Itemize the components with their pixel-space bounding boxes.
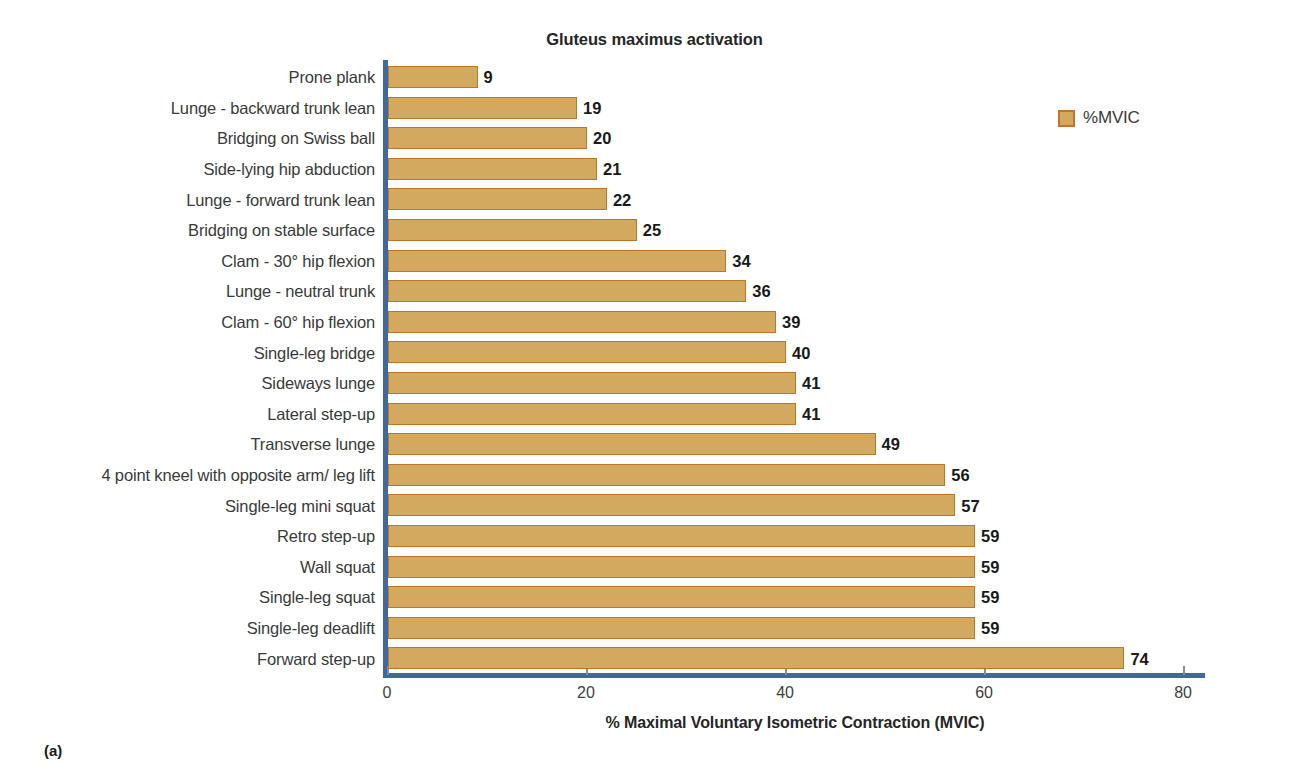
- bar[interactable]: [388, 586, 975, 608]
- x-axis-title: % Maximal Voluntary Isometric Contractio…: [387, 714, 1203, 732]
- bar-row: Wall squat59: [387, 552, 1203, 583]
- bar[interactable]: [388, 250, 726, 272]
- bar-row: Bridging on Swiss ball20: [387, 123, 1203, 154]
- bar[interactable]: [388, 97, 577, 119]
- bar-row: Lateral step-up41: [387, 399, 1203, 430]
- category-label: Prone plank: [289, 68, 375, 87]
- bar[interactable]: [388, 280, 746, 302]
- category-label: Single-leg bridge: [254, 343, 375, 362]
- bar-row: Prone plank9: [387, 62, 1203, 93]
- bar[interactable]: [388, 494, 955, 516]
- category-label: Clam - 30° hip flexion: [221, 251, 375, 270]
- bar-row: Clam - 60° hip flexion39: [387, 307, 1203, 338]
- bar-value-label: 9: [484, 68, 493, 87]
- x-tick-label: 60: [975, 684, 993, 702]
- bar-value-label: 59: [981, 557, 999, 576]
- category-label: Single-leg squat: [259, 588, 375, 607]
- bar[interactable]: [388, 433, 876, 455]
- figure-panel-a: Gluteus maximus activation %MVIC 0204060…: [0, 0, 1309, 774]
- x-tick-label: 80: [1174, 684, 1192, 702]
- bar-row: Single-leg mini squat57: [387, 490, 1203, 521]
- bar-value-label: 21: [603, 160, 621, 179]
- category-label: Forward step-up: [257, 649, 375, 668]
- category-label: Single-leg mini squat: [225, 496, 375, 515]
- bar-row: Single-leg bridge40: [387, 337, 1203, 368]
- bar[interactable]: [388, 66, 478, 88]
- bar-row: Sideways lunge41: [387, 368, 1203, 399]
- bar[interactable]: [388, 127, 587, 149]
- bar-value-label: 19: [583, 98, 601, 117]
- bar-value-label: 22: [613, 190, 631, 209]
- bar[interactable]: [388, 647, 1124, 669]
- panel-caption: (a): [44, 742, 62, 759]
- x-tick-label: 40: [776, 684, 794, 702]
- bar-value-label: 56: [951, 466, 969, 485]
- bar[interactable]: [388, 188, 607, 210]
- bar-value-label: 41: [802, 374, 820, 393]
- bar-value-label: 59: [981, 588, 999, 607]
- category-label: Sideways lunge: [262, 374, 375, 393]
- category-label: Transverse lunge: [251, 435, 375, 454]
- bar[interactable]: [388, 372, 796, 394]
- bar-value-label: 36: [752, 282, 770, 301]
- bar-value-label: 40: [792, 343, 810, 362]
- bar[interactable]: [388, 525, 975, 547]
- category-label: Wall squat: [300, 557, 375, 576]
- bar-row: Lunge - backward trunk lean19: [387, 93, 1203, 124]
- bar-value-label: 25: [643, 221, 661, 240]
- category-label: Bridging on stable surface: [188, 221, 375, 240]
- category-label: Single-leg deadlift: [247, 619, 375, 638]
- bar-row: Clam - 30° hip flexion34: [387, 246, 1203, 277]
- plot-area: 020406080 Prone plank9Lunge - backward t…: [387, 60, 1203, 680]
- bar-row: 4 point kneel with opposite arm/ leg lif…: [387, 460, 1203, 491]
- bar-row: Transverse lunge49: [387, 429, 1203, 460]
- bar-value-label: 49: [882, 435, 900, 454]
- bar[interactable]: [388, 158, 597, 180]
- category-label: 4 point kneel with opposite arm/ leg lif…: [101, 466, 375, 485]
- bar[interactable]: [388, 311, 776, 333]
- bar-value-label: 34: [732, 251, 750, 270]
- bar[interactable]: [388, 617, 975, 639]
- bar[interactable]: [388, 341, 786, 363]
- bar[interactable]: [388, 464, 945, 486]
- bar-row: Forward step-up74: [387, 643, 1203, 674]
- x-tick-label: 20: [577, 684, 595, 702]
- category-label: Clam - 60° hip flexion: [221, 313, 375, 332]
- bar-row: Lunge - forward trunk lean22: [387, 184, 1203, 215]
- bar-value-label: 39: [782, 313, 800, 332]
- bar-row: Single-leg deadlift59: [387, 613, 1203, 644]
- bar-value-label: 57: [961, 496, 979, 515]
- category-label: Lateral step-up: [267, 404, 375, 423]
- bar-row: Retro step-up59: [387, 521, 1203, 552]
- category-label: Lunge - forward trunk lean: [186, 190, 375, 209]
- chart-title: Gluteus maximus activation: [0, 30, 1309, 49]
- category-label: Retro step-up: [277, 527, 375, 546]
- bar-value-label: 74: [1130, 649, 1148, 668]
- bar-row: Bridging on stable surface25: [387, 215, 1203, 246]
- bar[interactable]: [388, 403, 796, 425]
- bar[interactable]: [388, 556, 975, 578]
- category-label: Bridging on Swiss ball: [217, 129, 375, 148]
- bar-row: Lunge - neutral trunk36: [387, 276, 1203, 307]
- bar-value-label: 41: [802, 404, 820, 423]
- bar-value-label: 59: [981, 619, 999, 638]
- category-label: Lunge - backward trunk lean: [171, 98, 375, 117]
- bar-value-label: 20: [593, 129, 611, 148]
- x-tick-label: 0: [383, 684, 392, 702]
- category-label: Lunge - neutral trunk: [226, 282, 375, 301]
- bar-row: Side-lying hip abduction21: [387, 154, 1203, 185]
- category-label: Side-lying hip abduction: [203, 160, 375, 179]
- bar-row: Single-leg squat59: [387, 582, 1203, 613]
- bar[interactable]: [388, 219, 637, 241]
- bar-value-label: 59: [981, 527, 999, 546]
